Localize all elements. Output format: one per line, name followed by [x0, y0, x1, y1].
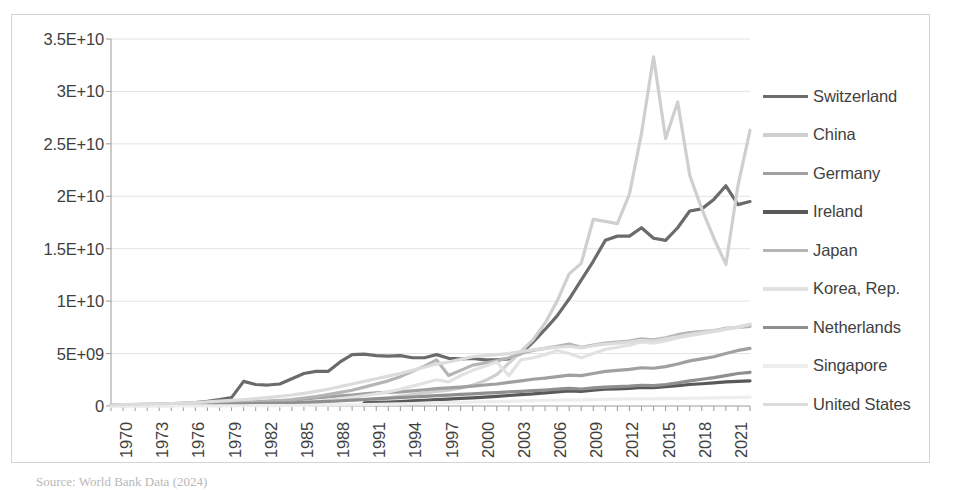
legend-label: Japan [813, 241, 857, 260]
x-axis-tick-label: 1982 [263, 422, 280, 458]
source-note: Source: World Bank Data (2024) [36, 474, 207, 490]
legend-label: Ireland [813, 202, 863, 221]
x-axis-tick-label: 1988 [335, 422, 352, 458]
legend-item-netherlands[interactable]: Netherlands [763, 308, 931, 347]
x-axis-tick-label: 1994 [407, 422, 424, 458]
legend-item-china[interactable]: China [763, 116, 931, 155]
legend-label: Singapore [813, 356, 887, 375]
legend-swatch-icon [763, 249, 808, 253]
x-axis-tick-label: 1997 [444, 422, 461, 458]
legend-label: United States [813, 395, 911, 414]
x-axis-tick-label: 2006 [552, 422, 569, 458]
legend-label: Korea, Rep. [813, 279, 900, 298]
x-axis-tick-label: 2003 [516, 422, 533, 458]
x-axis-tick-label: 2015 [661, 422, 678, 458]
legend-label: Germany [813, 164, 880, 183]
legend-item-germany[interactable]: Germany [763, 154, 931, 193]
legend-item-ireland[interactable]: Ireland [763, 193, 931, 232]
x-axis-tick-label: 1979 [227, 422, 244, 458]
legend-label: Netherlands [813, 318, 901, 337]
legend-item-korea-rep[interactable]: Korea, Rep. [763, 270, 931, 309]
x-axis-tick-label: 1976 [190, 422, 207, 458]
legend-swatch-icon [763, 403, 808, 407]
x-axis-tick-label: 2018 [697, 422, 714, 458]
legend-swatch-icon [763, 287, 808, 291]
legend-swatch-icon [763, 210, 808, 214]
legend-item-singapore[interactable]: Singapore [763, 347, 931, 386]
legend-item-united-states[interactable]: United States [763, 385, 931, 424]
x-axis-tick-label: 1973 [154, 422, 171, 458]
chart-legend: SwitzerlandChinaGermanyIrelandJapanKorea… [763, 77, 931, 424]
x-axis-tick-label: 2021 [733, 422, 750, 458]
x-axis-tick-label: 1970 [118, 422, 135, 458]
legend-swatch-icon [763, 133, 808, 137]
legend-label: Switzerland [813, 87, 897, 106]
chart-frame: 05E+091E+101.5E+102E+102.5E+103E+103.5E+… [11, 14, 930, 463]
legend-swatch-icon [763, 326, 808, 330]
x-axis-tick-label: 2000 [480, 422, 497, 458]
x-axis-tick-label: 2009 [588, 422, 605, 458]
x-axis-tick-label: 2012 [624, 422, 641, 458]
legend-label: China [813, 125, 856, 144]
legend-swatch-icon [763, 172, 808, 176]
legend-item-japan[interactable]: Japan [763, 231, 931, 270]
x-axis-tick-label: 1985 [299, 422, 316, 458]
legend-item-switzerland[interactable]: Switzerland [763, 77, 931, 116]
x-axis-tick-label: 1991 [371, 422, 388, 458]
legend-swatch-icon [763, 95, 808, 99]
legend-swatch-icon [763, 364, 808, 368]
